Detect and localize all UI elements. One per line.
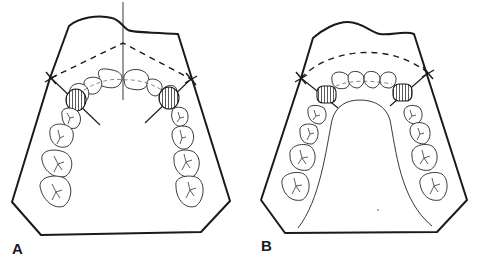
maxillary-cast-diagram xyxy=(0,0,240,262)
posterior-teeth-left xyxy=(40,108,81,207)
mandibular-cast-diagram xyxy=(240,0,481,262)
hatched-premolar-right xyxy=(393,84,412,101)
speck xyxy=(377,209,379,211)
posterior-teeth-right xyxy=(172,107,203,207)
panel-label-b: B xyxy=(261,237,272,254)
cast-outline xyxy=(261,22,467,233)
panel-a: A xyxy=(0,0,240,262)
anterior-teeth xyxy=(332,71,396,88)
hatched-premolar-right xyxy=(159,87,179,109)
hatched-premolar-left xyxy=(317,86,336,103)
panel-label-a: A xyxy=(12,240,23,257)
panel-b: B xyxy=(240,0,481,262)
posterior-teeth-left xyxy=(282,105,326,200)
dashed-reference-line xyxy=(51,43,191,79)
